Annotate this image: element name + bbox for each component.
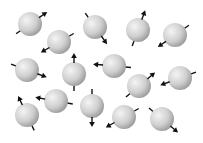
sphere [15,58,39,82]
spin-sphere [149,107,178,132]
spin-diagram [0,0,203,143]
sphere [83,15,107,39]
sphere [15,103,39,127]
spin-diagram-svg [0,0,203,143]
spin-sphere [83,13,107,44]
sphere [112,105,136,129]
sphere [168,66,192,90]
spin-sphere [16,12,47,36]
sphere [127,74,151,98]
spin-sphere [106,105,139,129]
spin-sphere [80,89,104,127]
sphere [47,30,71,54]
arrowhead-icon [93,62,98,68]
spin-sphere [158,23,189,47]
spin-sphere [62,53,86,91]
spin-sphere [93,54,131,78]
spin-sphere [160,66,196,90]
spin-sphere [15,96,39,130]
sphere [126,18,150,42]
sphere [62,62,86,86]
arrowhead-icon [71,53,77,58]
spin-sphere [126,10,150,46]
sphere [44,89,68,113]
arrowhead-icon [35,95,40,101]
sphere [80,94,104,118]
sphere [163,23,187,47]
spin-sphere [126,73,155,98]
spin-sphere [41,30,74,54]
spin-sphere [11,58,47,82]
spin-sphere [35,89,72,113]
sphere [150,107,174,131]
arrowhead-icon [89,122,95,127]
sphere [102,54,126,78]
sphere [18,12,42,36]
